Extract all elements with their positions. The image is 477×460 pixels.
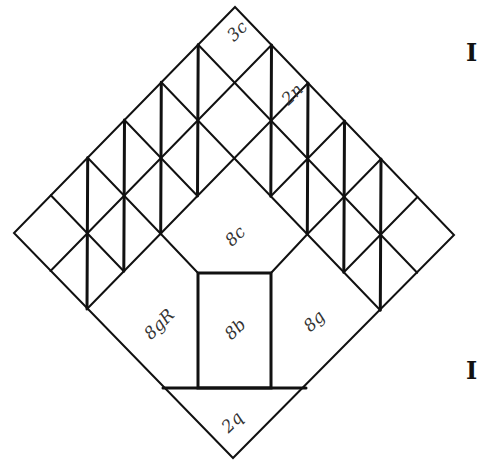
8c-lower-right-edge (271, 234, 307, 273)
vertical-split-line-right (344, 121, 345, 272)
label-8g: 8g (299, 306, 329, 336)
label-8b: 8b (220, 314, 249, 343)
vertical-split-line-left (124, 120, 125, 271)
label-8c: 8c (221, 221, 250, 250)
vertical-split-line-right (307, 83, 308, 234)
vertical-split-line-right (380, 159, 381, 310)
edge-letter-bottom: I (466, 356, 477, 385)
center-pieces (161, 234, 308, 388)
vertical-split-line-left (161, 82, 162, 233)
label-2q: 2q (216, 407, 246, 437)
label-8gR: 8gR (140, 305, 179, 344)
8c-lower-left-edge (161, 234, 198, 273)
vertical-split-line-left (87, 158, 88, 309)
label-2n: 2n (276, 79, 306, 109)
edge-letter-top: I (466, 38, 477, 67)
vertical-split-line-right (271, 45, 272, 196)
vertical-split-line-left (198, 45, 199, 196)
